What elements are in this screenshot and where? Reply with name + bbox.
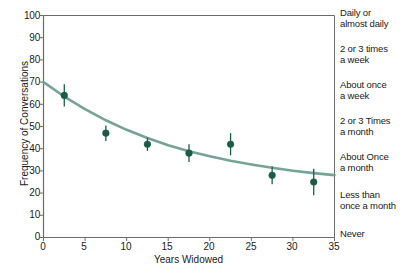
plot-area [0, 0, 403, 267]
error-bars [64, 84, 313, 195]
axis-frame [40, 16, 335, 242]
data-point-markers [61, 92, 317, 185]
chart-figure: 100 90 80 70 60 50 40 30 20 10 0 0 5 10 … [0, 0, 403, 267]
